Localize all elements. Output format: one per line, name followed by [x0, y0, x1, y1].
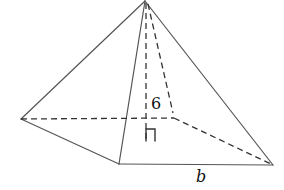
edge-apex-left	[21, 1, 145, 119]
hidden-edge-back-right	[174, 118, 273, 165]
hidden-edge-left-back	[21, 118, 174, 119]
base-side-label: b	[196, 169, 206, 185]
height-label: 6	[151, 96, 161, 112]
edge-left-front	[21, 119, 119, 164]
edge-apex-front	[119, 1, 145, 164]
edge-front-right	[119, 164, 273, 165]
right-angle-marker	[146, 129, 155, 141]
pyramid-diagram	[0, 0, 284, 190]
edge-apex-right	[145, 1, 273, 165]
